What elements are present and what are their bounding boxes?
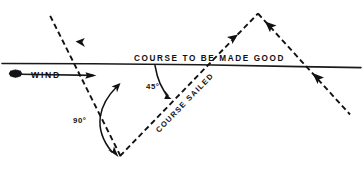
wind-source-blob-icon [9,70,22,78]
angle-90-label: 90° [73,116,87,125]
sailing-diagram-canvas: WIND COURSE TO BE MADE GOOD COURSE SAILE… [0,0,363,172]
wind-label: WIND [31,70,61,80]
course-made-good-label: COURSE TO BE MADE GOOD [134,54,285,63]
sailing-diagram: WIND COURSE TO BE MADE GOOD COURSE SAILE… [0,0,363,172]
angle-45-label: 45° [146,82,160,91]
